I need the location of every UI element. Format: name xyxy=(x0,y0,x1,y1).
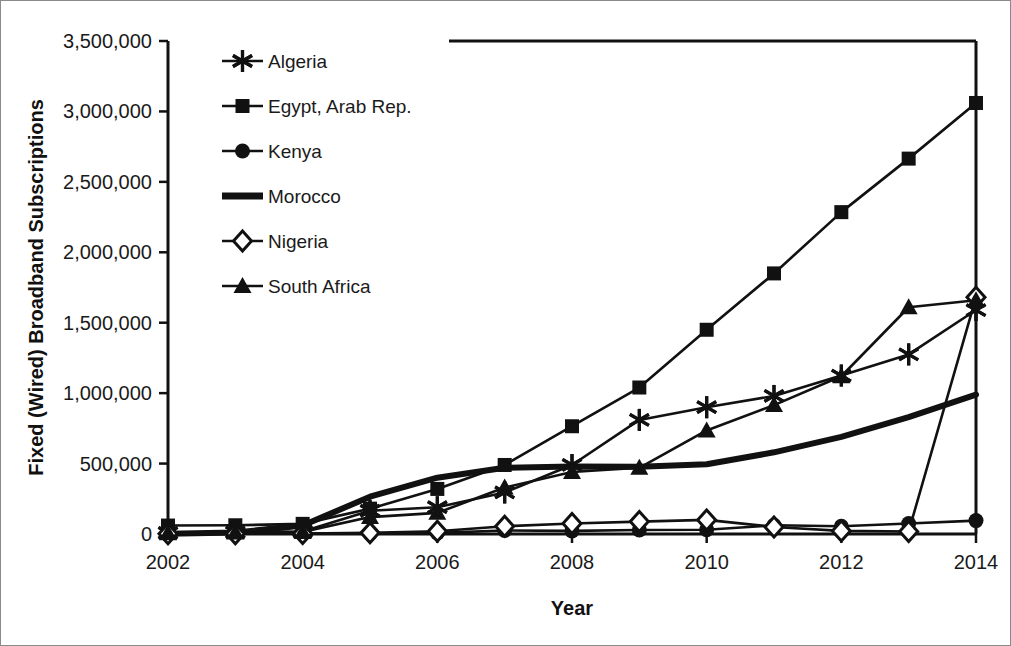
y-tick-label: 1,500,000 xyxy=(63,312,152,334)
x-tick-label: 2012 xyxy=(819,551,864,573)
series-marker-nigeria xyxy=(428,521,446,541)
y-tick-label: 1,000,000 xyxy=(63,382,152,404)
series-marker-egypt-arab-rep xyxy=(565,419,579,433)
x-tick-label: 2014 xyxy=(954,551,999,573)
legend-label-nigeria: Nigeria xyxy=(268,231,329,252)
y-tick-label: 3,000,000 xyxy=(63,100,152,122)
legend-label-kenya: Kenya xyxy=(268,141,322,162)
y-tick-label: 2,500,000 xyxy=(63,171,152,193)
chart-figure: 0500,0001,000,0001,500,0002,000,0002,500… xyxy=(0,0,1011,646)
legend-marker-kenya xyxy=(235,144,250,159)
y-tick-label: 3,500,000 xyxy=(63,30,152,52)
series-marker-egypt-arab-rep xyxy=(834,205,848,219)
series-marker-egypt-arab-rep xyxy=(498,458,512,472)
y-tick-label: 2,000,000 xyxy=(63,241,152,263)
series-marker-egypt-arab-rep xyxy=(969,96,983,110)
line-chart: 0500,0001,000,0001,500,0002,000,0002,500… xyxy=(1,1,1011,646)
legend-label-morocco: Morocco xyxy=(268,186,341,207)
x-tick-label: 2010 xyxy=(684,551,729,573)
legend-marker-nigeria xyxy=(234,231,252,251)
x-tick-label: 2006 xyxy=(415,551,460,573)
series-marker-egypt-arab-rep xyxy=(902,152,916,166)
x-tick-label: 2008 xyxy=(550,551,595,573)
legend-label-algeria: Algeria xyxy=(268,51,328,72)
series-marker-egypt-arab-rep xyxy=(430,482,444,496)
x-axis-title: Year xyxy=(551,597,593,619)
y-tick-label: 0 xyxy=(141,523,152,545)
y-axis-title: Fixed (Wired) Broadband Subscriptions xyxy=(25,99,47,476)
legend-label-egypt-arab-rep: Egypt, Arab Rep. xyxy=(268,96,412,117)
x-tick-label: 2002 xyxy=(146,551,191,573)
series-line-south-africa xyxy=(168,300,976,533)
legend-marker-egypt-arab-rep xyxy=(236,99,250,113)
y-tick-label: 500,000 xyxy=(80,453,152,475)
series-marker-egypt-arab-rep xyxy=(700,323,714,337)
legend-label-south-africa: South Africa xyxy=(268,276,371,297)
series-marker-kenya xyxy=(969,513,984,528)
x-tick-label: 2004 xyxy=(280,551,325,573)
series-line-nigeria xyxy=(168,297,976,533)
series-marker-nigeria xyxy=(361,523,379,543)
series-marker-egypt-arab-rep xyxy=(632,381,646,395)
series-marker-egypt-arab-rep xyxy=(767,266,781,280)
